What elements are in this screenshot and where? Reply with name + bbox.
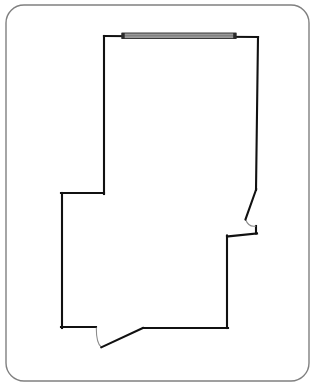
floor-plan-canvas <box>0 0 318 388</box>
plan-background <box>0 0 318 388</box>
window-jamb-left <box>122 33 125 39</box>
floor-plan-drawing <box>0 0 318 388</box>
window-top <box>122 33 237 39</box>
window-jamb-right <box>233 33 236 39</box>
